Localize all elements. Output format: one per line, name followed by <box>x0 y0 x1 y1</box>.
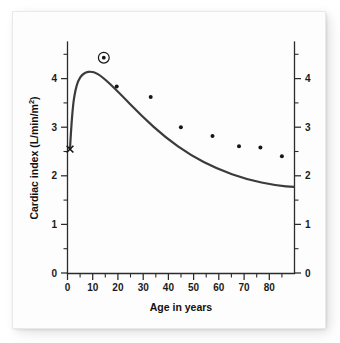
x-axis-title: Age in years <box>150 301 213 313</box>
y-tick-label-right-1: 1 <box>305 219 311 230</box>
x-tick-label-30: 30 <box>138 282 150 293</box>
data-point <box>149 95 153 99</box>
y-axis-title-group: Cardiac index (L/min/m2) <box>27 96 40 219</box>
x-tick-label-40: 40 <box>163 282 175 293</box>
highlight-center-dot <box>102 56 106 60</box>
cardiac-index-curve <box>70 72 294 187</box>
x-tick-label-70: 70 <box>239 282 251 293</box>
y-tick-label-right-2: 2 <box>305 170 311 181</box>
x-tick-label-10: 10 <box>87 282 99 293</box>
y-tick-label-left-3: 3 <box>51 122 57 133</box>
data-point-group <box>115 84 284 158</box>
y-axis-title-close: ) <box>28 96 40 100</box>
cardiac-index-chart: 0 1 2 3 4 <box>13 12 325 328</box>
x-tick-label-80: 80 <box>264 282 276 293</box>
x-axis: 0 10 20 30 40 50 60 70 80 <box>65 274 295 294</box>
x-tick-label-20: 20 <box>112 282 124 293</box>
data-point <box>179 125 183 129</box>
y-axis-right: 0 1 2 3 4 <box>295 42 312 279</box>
data-point <box>115 84 119 88</box>
figure-panel-inner: 0 1 2 3 4 <box>13 12 325 328</box>
y-axis-title-main: Cardiac index (L/min/m <box>28 104 40 220</box>
y-tick-label-right-4: 4 <box>305 73 311 84</box>
y-tick-label-right-0: 0 <box>305 268 311 279</box>
highlighted-data-point <box>98 52 109 63</box>
y-tick-label-right-3: 3 <box>305 122 311 133</box>
data-point <box>280 154 284 158</box>
data-point <box>237 144 241 148</box>
data-point <box>258 146 262 150</box>
x-tick-label-60: 60 <box>213 282 225 293</box>
y-axis-left: 0 1 2 3 4 <box>51 42 67 279</box>
figure-panel-frame: 0 1 2 3 4 <box>13 12 325 328</box>
y-axis-title: Cardiac index (L/min/m2) <box>27 96 40 219</box>
figure-root: 0 1 2 3 4 <box>0 0 340 343</box>
x-tick-label-0: 0 <box>65 282 71 293</box>
y-tick-label-left-2: 2 <box>51 170 57 181</box>
x-tick-label-50: 50 <box>188 282 200 293</box>
y-tick-label-left-4: 4 <box>51 73 57 84</box>
data-point <box>211 134 215 138</box>
y-tick-label-left-0: 0 <box>51 268 57 279</box>
y-tick-label-left-1: 1 <box>51 219 57 230</box>
